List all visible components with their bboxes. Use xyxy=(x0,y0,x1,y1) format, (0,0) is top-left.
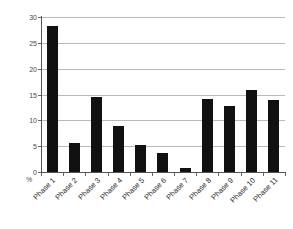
x-axis-tick-label: Phase 7 xyxy=(165,176,190,201)
bar xyxy=(202,99,213,172)
x-axis-line xyxy=(41,172,286,173)
bar-slot xyxy=(130,17,152,172)
x-axis-tick-mark xyxy=(85,173,86,176)
bar-slot xyxy=(196,17,218,172)
x-axis-tick-mark xyxy=(263,173,264,176)
bar xyxy=(69,143,80,172)
x-axis-tick-mark xyxy=(108,173,109,176)
bar-slot xyxy=(41,17,63,172)
x-axis-tick-label: Phase 11 xyxy=(252,176,280,204)
bar-slot xyxy=(152,17,174,172)
x-axis-tick-mark xyxy=(41,173,42,176)
bar xyxy=(180,168,191,172)
y-axis-unit-label: % xyxy=(26,176,32,183)
x-axis-tick-mark xyxy=(196,173,197,176)
x-axis-tick-label: Phase 8 xyxy=(188,176,213,201)
bar xyxy=(224,106,235,172)
bar-slot xyxy=(85,17,107,172)
x-axis-tick-mark xyxy=(63,173,64,176)
x-axis-tick-label: Phase 6 xyxy=(143,176,168,201)
x-axis-tick-label: Phase 3 xyxy=(77,176,102,201)
plot-area xyxy=(41,17,285,172)
y-axis-tick-label: 0 xyxy=(9,169,37,176)
bar-slot xyxy=(241,17,263,172)
x-axis-tick-mark xyxy=(130,173,131,176)
bar xyxy=(135,145,146,172)
x-axis-tick-mark xyxy=(152,173,153,176)
bar xyxy=(47,26,58,172)
x-axis-tick-label: Phase 4 xyxy=(99,176,124,201)
y-axis-tick-label: 25 xyxy=(9,39,37,46)
x-axis-tick-mark xyxy=(285,173,286,176)
x-axis-tick-label: Phase 2 xyxy=(54,176,79,201)
x-axis-tick-label: Phase 5 xyxy=(121,176,146,201)
bar-slot xyxy=(63,17,85,172)
x-axis-tick-labels: Phase 1Phase 2Phase 3Phase 4Phase 5Phase… xyxy=(41,176,285,229)
bar xyxy=(113,126,124,172)
y-axis-tick-label: 15 xyxy=(9,91,37,98)
bar-slot xyxy=(263,17,285,172)
bar xyxy=(91,97,102,172)
y-axis-tick-label: 5 xyxy=(9,143,37,150)
bar xyxy=(157,153,168,172)
bar-slot xyxy=(218,17,240,172)
x-axis-tick-mark xyxy=(218,173,219,176)
y-axis-tick-label: 10 xyxy=(9,117,37,124)
x-axis-tick-label: Phase 1 xyxy=(32,176,57,201)
x-axis-tick-mark xyxy=(241,173,242,176)
bar xyxy=(246,90,257,172)
bar xyxy=(268,100,279,172)
y-axis-tick-label: 20 xyxy=(9,65,37,72)
bar-chart: 051015202530 % Phase 1Phase 2Phase 3Phas… xyxy=(0,0,293,229)
y-axis-tick-labels: 051015202530 xyxy=(0,17,37,172)
bar-slot xyxy=(174,17,196,172)
bar-slot xyxy=(108,17,130,172)
x-axis-tick-mark xyxy=(174,173,175,176)
y-axis-tick-label: 30 xyxy=(9,14,37,21)
